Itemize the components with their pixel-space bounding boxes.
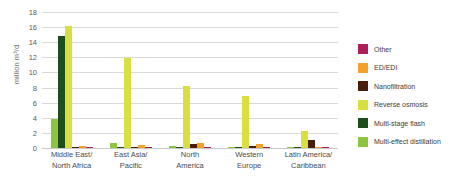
bar-group <box>220 12 279 148</box>
desalination-capacity-bar-chart: million m³/d 181614121086420 Middle East… <box>0 0 460 186</box>
bar <box>322 147 329 148</box>
bar-group <box>101 12 160 148</box>
bar <box>228 147 235 149</box>
gridline-0 <box>42 148 338 149</box>
bar <box>117 147 124 148</box>
legend-item[interactable]: Multi-effect distillation <box>358 133 460 152</box>
legend-color-swatch <box>358 81 368 91</box>
y-tick-label-2: 2 <box>33 128 37 137</box>
bar <box>65 26 72 148</box>
legend-item-label: Multi-stage flash <box>374 120 425 127</box>
y-tick-label-6: 6 <box>33 98 37 107</box>
bar <box>176 147 183 148</box>
y-tick-label-18: 18 <box>29 8 37 17</box>
bar <box>145 147 152 148</box>
bar <box>235 147 242 148</box>
bar <box>169 146 176 148</box>
y-tick-label-12: 12 <box>29 53 37 62</box>
legend-color-swatch <box>358 118 368 128</box>
bar <box>256 144 263 148</box>
bar <box>242 96 249 148</box>
bar <box>51 119 58 148</box>
plot-area: 181614121086420 <box>42 12 338 148</box>
legend-color-swatch <box>358 44 368 54</box>
bar <box>249 146 256 148</box>
legend-color-swatch <box>358 137 368 147</box>
bar <box>301 131 308 148</box>
bar <box>72 147 79 149</box>
legend-color-swatch <box>358 63 368 73</box>
bar <box>131 147 138 148</box>
bar <box>86 147 93 148</box>
bar <box>308 140 315 148</box>
bar <box>79 146 86 148</box>
bar <box>315 147 322 149</box>
chart-legend: OtherED/EDINanofiltrationReverse osmosis… <box>358 40 460 151</box>
bar-group <box>42 12 101 148</box>
legend-item[interactable]: Other <box>358 40 460 59</box>
y-tick-label-14: 14 <box>29 38 37 47</box>
legend-item-label: Nanofiltration <box>374 83 415 90</box>
legend-item-label: ED/EDI <box>374 64 397 71</box>
y-tick-label-10: 10 <box>29 68 37 77</box>
bar <box>124 58 131 148</box>
legend-item-label: Multi-effect distillation <box>374 138 441 145</box>
x-axis-category-labels: Middle East/North AfricaEast Asia/Pacifi… <box>42 150 338 184</box>
bar-group <box>160 12 219 148</box>
bar <box>58 36 65 148</box>
bar <box>138 145 145 148</box>
bar <box>190 144 197 148</box>
legend-item-label: Reverse osmosis <box>374 101 428 108</box>
y-axis-title: million m³/d <box>12 25 21 105</box>
legend-item[interactable]: Reverse osmosis <box>358 96 460 115</box>
legend-item[interactable]: Multi-stage flash <box>358 114 460 133</box>
y-tick-label-4: 4 <box>33 113 37 122</box>
bar <box>197 143 204 148</box>
bar <box>294 147 301 148</box>
x-axis-label: Latin America/Caribbean <box>267 150 350 171</box>
legend-color-swatch <box>358 100 368 110</box>
legend-item[interactable]: Nanofiltration <box>358 77 460 96</box>
bar <box>287 147 294 149</box>
bar <box>204 147 211 148</box>
bar <box>263 147 270 148</box>
y-tick-label-16: 16 <box>29 23 37 32</box>
bar-group <box>279 12 338 148</box>
bar <box>183 86 190 148</box>
legend-item-label: Other <box>374 46 392 53</box>
y-tick-label-8: 8 <box>33 83 37 92</box>
legend-item[interactable]: ED/EDI <box>358 59 460 78</box>
bar <box>110 143 117 148</box>
